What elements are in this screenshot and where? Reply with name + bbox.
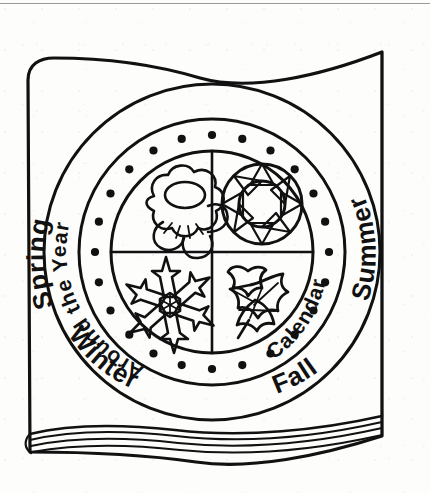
book-cover-illustration: Spring Summer Fall Winter Around the Yea… bbox=[0, 0, 430, 493]
sun-icon bbox=[222, 164, 302, 244]
winter-quadrant bbox=[119, 257, 220, 353]
seasons-emblem: Spring Summer Fall Winter Around the Yea… bbox=[21, 84, 382, 420]
summer-quadrant bbox=[222, 164, 302, 244]
flower-icon bbox=[147, 166, 228, 259]
spring-quadrant bbox=[147, 166, 228, 259]
book-cover bbox=[28, 52, 382, 464]
book-page-edges bbox=[26, 416, 382, 453]
page-root: Spring Summer Fall Winter Around the Yea… bbox=[0, 0, 430, 493]
snowflake-icon bbox=[119, 257, 220, 353]
